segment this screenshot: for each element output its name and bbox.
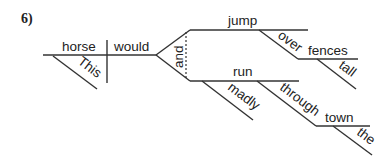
sentence-diagram: horse This would and jump over fences ta… — [0, 0, 391, 161]
word-over: over — [275, 27, 305, 55]
word-and: and — [171, 45, 186, 68]
word-fences: fences — [308, 43, 348, 58]
word-jump: jump — [227, 13, 257, 28]
word-town: town — [325, 110, 354, 125]
word-horse: horse — [62, 39, 96, 54]
word-run: run — [233, 64, 253, 79]
word-madly: madly — [225, 79, 263, 113]
word-would: would — [113, 39, 149, 54]
